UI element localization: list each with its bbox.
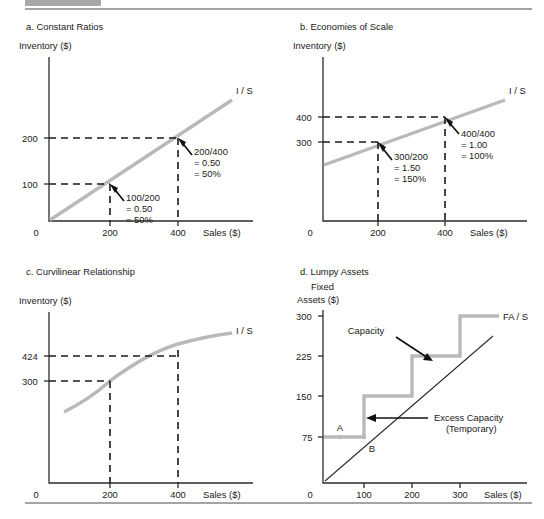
panel-a-ytick-label-100: 100: [22, 179, 38, 190]
panel-c: c. Curvilinear Relationship Inventory ($…: [19, 266, 253, 500]
panel-a-ytick-label-200: 200: [22, 133, 38, 144]
panel-d-xtick-label-200: 200: [404, 489, 420, 500]
figure-root: a. Constant Ratios Inventory ($) I / S 2…: [0, 0, 544, 519]
panel-d-origin-label: 0: [307, 489, 312, 500]
panel-d-ytick-label-150: 150: [296, 391, 312, 402]
panel-d-point-b-marker: [362, 435, 366, 439]
panel-c-series-label: I / S: [236, 325, 253, 336]
panel-d-ytick-label-225: 225: [296, 351, 312, 362]
panel-b-note-1-line-3: = 150%: [394, 173, 426, 184]
panel-a-note-1-line-2: = 0.50: [126, 203, 152, 214]
panel-b-xtick-label-400: 400: [437, 227, 453, 238]
panel-d: d. Lumpy Assets Fixed Assets ($) FA / S …: [296, 266, 528, 500]
panel-b-ytick-label-400: 400: [296, 112, 312, 123]
panel-a-y-axis-label: Inventory ($): [19, 40, 72, 51]
panel-b-title: b. Economies of Scale: [300, 21, 393, 32]
panel-a-note-1-line-1: 100/200: [126, 192, 160, 203]
panel-a-title: a. Constant Ratios: [26, 21, 103, 32]
panel-a-series-label: I / S: [236, 85, 253, 96]
panel-d-series-label: FA / S: [503, 311, 528, 322]
panel-b-axes: [323, 57, 527, 221]
panel-a-note-1-line-3: = 50%: [126, 214, 153, 225]
panel-d-callout-excess-line-2: (Temporary): [446, 423, 497, 434]
panel-b-note-1-line-1: 300/200: [394, 151, 428, 162]
panel-b-series-label: I / S: [509, 85, 526, 96]
panel-a-x-axis-label: Sales ($): [203, 227, 241, 238]
panel-b-y-axis-label: Inventory ($): [293, 40, 346, 51]
panel-a-note-2-line-3: = 50%: [194, 168, 221, 179]
panel-d-proportional-line: [325, 336, 493, 481]
panel-a-xtick-label-400: 400: [170, 227, 186, 238]
panel-b-note-2-line-3: = 100%: [461, 150, 493, 161]
panel-d-x-axis-label: Sales ($): [484, 489, 522, 500]
panel-c-axes: [49, 312, 253, 483]
panel-d-point-a-label: A: [337, 422, 344, 433]
panel-a: a. Constant Ratios Inventory ($) I / S 2…: [19, 21, 253, 238]
panel-d-ytick-label-300: 300: [296, 311, 312, 322]
panel-c-ytick-label-300: 300: [22, 376, 38, 387]
panel-c-xtick-label-400: 400: [170, 489, 186, 500]
panel-a-xtick-label-200: 200: [102, 227, 118, 238]
panel-c-x-axis-label: Sales ($): [203, 489, 241, 500]
panel-d-y-axis-label-line-2: Assets ($): [297, 294, 339, 305]
panel-b-note-2-line-1: 400/400: [461, 128, 495, 139]
panel-b-note-1-line-2: = 1.50: [394, 162, 420, 173]
panel-c-series-is: [64, 333, 232, 412]
panel-d-callout-excess-arrowhead: [366, 414, 376, 422]
panel-d-xtick-label-300: 300: [452, 489, 468, 500]
panel-c-origin-label: 0: [33, 489, 38, 500]
panel-d-callout-capacity-label: Capacity: [348, 325, 385, 336]
panel-b-x-axis-label: Sales ($): [470, 227, 508, 238]
panel-d-xtick-label-100: 100: [356, 489, 372, 500]
panel-d-callout-excess-line-1: Excess Capacity: [434, 412, 504, 423]
panel-b-note-2-line-2: = 1.00: [461, 139, 487, 150]
panel-d-title: d. Lumpy Assets: [300, 266, 369, 277]
panel-a-note-2-line-1: 200/400: [194, 146, 228, 157]
panel-d-ytick-label-75: 75: [302, 432, 312, 443]
panel-b-origin-label: 0: [307, 227, 312, 238]
panel-c-ytick-label-424: 424: [22, 351, 38, 362]
panel-b-xtick-label-200: 200: [370, 227, 386, 238]
panel-a-origin-label: 0: [33, 227, 38, 238]
four-panel-figure: a. Constant Ratios Inventory ($) I / S 2…: [0, 0, 544, 519]
panel-b: b. Economies of Scale Inventory ($) I / …: [293, 21, 527, 238]
panel-c-title: c. Curvilinear Relationship: [26, 266, 135, 277]
panel-d-point-a-marker: [338, 435, 342, 439]
panel-b-ytick-label-300: 300: [296, 137, 312, 148]
header-tab-block: [25, 0, 101, 6]
panel-c-y-axis-label: Inventory ($): [19, 295, 72, 306]
panel-c-xtick-label-200: 200: [102, 489, 118, 500]
panel-d-y-axis-label-line-1: Fixed: [311, 281, 334, 292]
panel-d-point-b-label: B: [369, 443, 375, 454]
panel-a-note-2-line-2: = 0.50: [194, 157, 220, 168]
